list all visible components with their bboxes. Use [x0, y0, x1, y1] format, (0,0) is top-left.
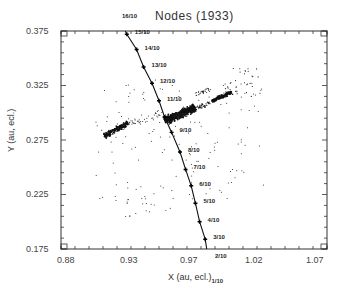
plot-frame: [61, 31, 327, 249]
y-tick-label: 0.225: [26, 189, 49, 199]
node-marker: [193, 201, 197, 205]
node-date-label: 12/10: [160, 78, 175, 84]
x-tick-label: 1.02: [245, 255, 263, 265]
x-tick-label: 0.93: [120, 255, 138, 265]
y-tick-label: 0.375: [26, 26, 49, 36]
chart-title: Nodes (1933): [155, 9, 234, 23]
node-date-label: 9/10: [180, 127, 192, 133]
node-marker: [178, 150, 182, 154]
node-marker: [189, 184, 193, 188]
node-date-label: 13/10: [152, 62, 167, 68]
y-axis-label: Y (au, ecl.): [6, 109, 16, 152]
node-date-label: 11/10: [167, 96, 182, 102]
node-date-label: 10/10: [173, 112, 188, 118]
x-tick-label: 1.07: [306, 255, 324, 265]
axis-ticks: [61, 31, 327, 249]
scatter-points: [96, 68, 265, 217]
node-date-label: 14/10: [145, 45, 160, 51]
y-tick-label: 0.275: [26, 135, 49, 145]
node-date-label: 16/10: [122, 13, 137, 19]
node-marker: [198, 220, 202, 224]
x-tick-label: 0.88: [57, 255, 75, 265]
node-date-label: 7/10: [194, 164, 206, 170]
node-marker: [142, 65, 146, 69]
corner-marker: [321, 31, 327, 36]
y-tick-label: 0.325: [26, 80, 49, 90]
node-date-label: 5/10: [203, 198, 215, 204]
x-axis-label: X (au, ecl.)1/10: [168, 272, 223, 284]
node-date-label: 2/10: [215, 253, 227, 259]
node-marker: [157, 99, 161, 103]
corner-marker: [61, 31, 67, 36]
plot-area: [0, 0, 344, 291]
x-tick-label: 0.97: [180, 255, 198, 265]
corner-marker: [61, 244, 67, 249]
node-date-label: 15/10: [135, 29, 150, 35]
node-date-label: 1/10: [212, 278, 224, 284]
node-date-label: 3/10: [213, 234, 225, 240]
y-tick-label: 0.175: [26, 244, 49, 254]
node-date-label: 8/10: [188, 147, 200, 153]
node-marker: [203, 237, 207, 241]
node-marker: [184, 167, 188, 171]
node-date-label: 6/10: [199, 181, 211, 187]
node-marker: [170, 130, 174, 134]
node-marker: [150, 81, 154, 85]
node-date-label: 4/10: [208, 217, 220, 223]
corner-marker: [321, 244, 327, 249]
